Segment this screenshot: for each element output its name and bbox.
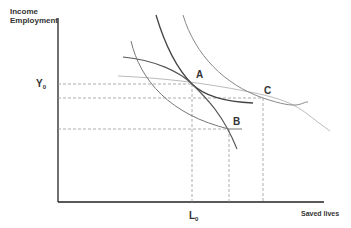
l0-tick-label: L0 (189, 210, 198, 222)
l0-sub: 0 (195, 216, 198, 222)
diagram-canvas (0, 0, 351, 228)
y0-tick-label: Y0 (36, 78, 46, 90)
point-a-label: A (196, 69, 203, 80)
y-axis-label-line2: Employment (10, 16, 58, 25)
x-axis-label: Saved lives (301, 210, 339, 217)
production-frontier (123, 57, 237, 149)
y-axis-label: Income Employment (10, 7, 58, 25)
point-b-label: B (233, 116, 240, 127)
y0-sub: 0 (43, 84, 46, 90)
dashed-guides (58, 84, 263, 202)
indifference-curve-b (131, 41, 242, 129)
point-c-label: C (264, 85, 271, 96)
y0-main: Y (36, 78, 43, 89)
y-axis-label-line1: Income (10, 7, 58, 16)
